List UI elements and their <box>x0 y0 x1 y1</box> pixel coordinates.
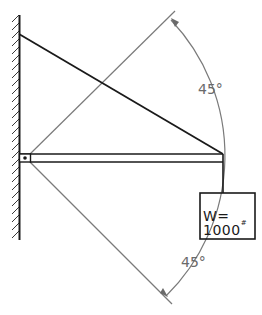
angle-label-upper: 45° <box>198 82 223 96</box>
load-value: W= 1000 <box>203 208 241 238</box>
arrowhead-upper-icon <box>171 18 179 27</box>
load-unit: # <box>241 219 247 227</box>
angle-label-lower: 45° <box>181 255 206 269</box>
load-label: W= 1000# <box>203 209 262 237</box>
lower-45-line <box>28 160 172 304</box>
pin-icon <box>23 156 27 160</box>
beam <box>19 154 223 193</box>
cable <box>19 34 223 154</box>
diagram-canvas <box>0 0 262 315</box>
wall-hatching <box>12 15 19 238</box>
